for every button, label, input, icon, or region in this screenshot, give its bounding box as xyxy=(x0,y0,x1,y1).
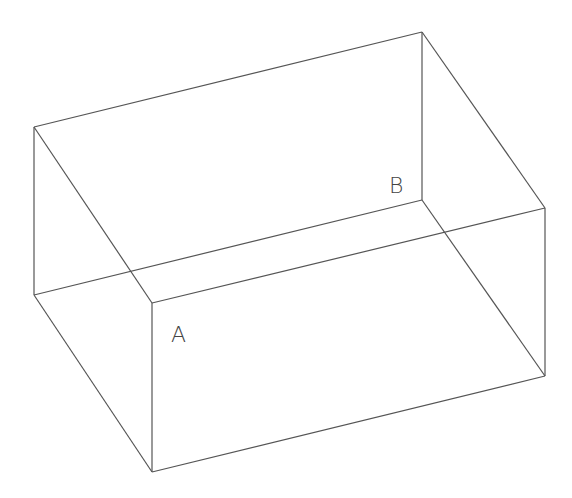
box-diagram: A B xyxy=(0,0,572,498)
edge-front-bottom xyxy=(152,376,545,472)
edge-bottom-left-depth xyxy=(34,295,152,472)
vertex-label-a: A xyxy=(171,322,186,347)
edge-top-right-depth xyxy=(422,32,545,208)
edge-back-top xyxy=(34,32,422,127)
edge-top-left-depth xyxy=(34,127,152,303)
edge-bottom-right-depth xyxy=(422,200,545,376)
edge-front-top xyxy=(152,208,545,303)
vertex-label-b: B xyxy=(389,173,403,198)
